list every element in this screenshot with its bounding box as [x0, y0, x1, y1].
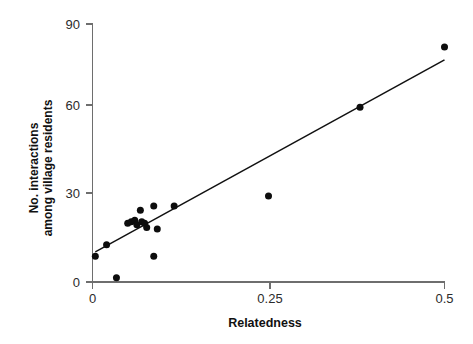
y-tick-label-90: 90	[66, 17, 80, 32]
data-point	[143, 224, 150, 231]
y-axis-title-line2: among village residents	[41, 99, 55, 236]
y-tick-label-60: 60	[66, 98, 80, 113]
data-point	[154, 225, 161, 232]
data-point	[113, 274, 120, 281]
data-point	[137, 207, 144, 214]
data-point	[92, 253, 99, 260]
data-points-layer	[92, 43, 448, 281]
chart-figure: 90 60 30 0 0 0.25 0.5 Relatedness No. in…	[0, 0, 473, 344]
x-tick-label-0.25: 0.25	[257, 291, 282, 306]
data-point	[150, 203, 157, 210]
x-tick-label-0.5: 0.5	[435, 291, 453, 306]
axes-group	[86, 24, 445, 289]
x-axis-title: Relatedness	[228, 316, 302, 330]
y-axis-title-line1: No. interactions	[27, 122, 41, 213]
data-point	[441, 43, 448, 50]
data-point	[150, 253, 157, 260]
y-tick-label-30: 30	[66, 186, 80, 201]
data-point	[265, 193, 272, 200]
data-point	[357, 104, 364, 111]
data-point	[171, 203, 178, 210]
y-tick-label-0: 0	[73, 275, 80, 290]
scatter-plot-svg: 90 60 30 0 0 0.25 0.5 Relatedness No. in…	[0, 0, 473, 344]
y-axis-title: No. interactions among village residents	[27, 99, 55, 236]
data-point	[103, 241, 110, 248]
x-tick-label-0: 0	[89, 291, 96, 306]
